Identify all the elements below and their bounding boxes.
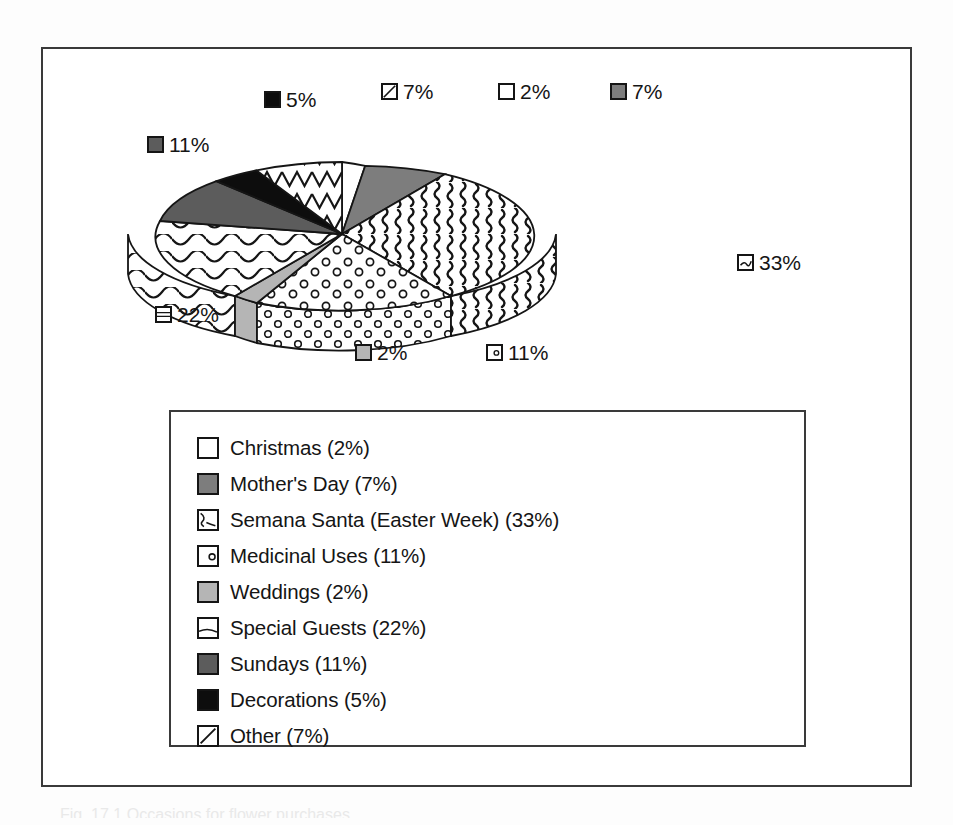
legend: Christmas (2%) Mother's Day (7%) Semana … <box>169 410 806 747</box>
swatch-dots-circles <box>486 344 503 361</box>
legend-item-semana-santa: Semana Santa (Easter Week) (33%) <box>197 502 804 538</box>
legend-swatch-black <box>197 689 219 711</box>
swatch-black <box>264 91 281 108</box>
callout-medicinal: 11% <box>486 342 548 363</box>
callout-christmas: 2% <box>498 81 550 102</box>
legend-swatch-dots-circles <box>197 545 219 567</box>
callout-sundays-text: 11% <box>169 134 209 155</box>
swatch-gray-light <box>355 344 372 361</box>
legend-label-sundays: Sundays (11%) <box>230 654 367 675</box>
callout-special-guests-text: 22% <box>177 304 219 325</box>
callout-decorations: 5% <box>264 89 316 110</box>
pie-wall-weddings <box>235 296 257 343</box>
pie-top-face <box>155 162 534 311</box>
legend-label-decorations: Decorations (5%) <box>230 690 387 711</box>
callout-decorations-text: 5% <box>286 89 316 110</box>
pie-chart: 5% 7% 2% 7% 11% <box>43 49 910 394</box>
figure-caption-remnant: Fig. 17.1 Occasions for flower purchases <box>60 806 860 818</box>
swatch-gray-dark <box>147 136 164 153</box>
callout-special-guests: 22% <box>155 304 219 325</box>
callout-semana-santa-text: 33% <box>759 252 801 273</box>
callout-semana-santa: 33% <box>737 252 801 273</box>
callout-other: 7% <box>381 81 433 102</box>
legend-item-mothers-day: Mother's Day (7%) <box>197 466 804 502</box>
swatch-squiggle <box>737 254 754 271</box>
legend-swatch-gray-medium <box>197 473 219 495</box>
legend-item-christmas: Christmas (2%) <box>197 430 804 466</box>
swatch-waves <box>155 306 172 323</box>
figure-frame: 5% 7% 2% 7% 11% <box>41 47 912 787</box>
legend-item-medicinal: Medicinal Uses (11%) <box>197 538 804 574</box>
legend-swatch-gray-dark <box>197 653 219 675</box>
legend-label-other: Other (7%) <box>230 726 329 747</box>
legend-item-sundays: Sundays (11%) <box>197 646 804 682</box>
callout-weddings-text: 2% <box>377 342 407 363</box>
legend-swatch-waves <box>197 617 219 639</box>
swatch-white <box>498 83 515 100</box>
legend-swatch-diagonal <box>197 725 219 747</box>
legend-item-special-guests: Special Guests (22%) <box>197 610 804 646</box>
legend-item-other: Other (7%) <box>197 718 804 754</box>
callout-mothers-day: 7% <box>610 81 662 102</box>
swatch-diagonal <box>381 83 398 100</box>
callout-christmas-text: 2% <box>520 81 550 102</box>
legend-label-semana-santa: Semana Santa (Easter Week) (33%) <box>230 510 559 531</box>
legend-item-decorations: Decorations (5%) <box>197 682 804 718</box>
legend-item-weddings: Weddings (2%) <box>197 574 804 610</box>
callout-other-text: 7% <box>403 81 433 102</box>
callout-sundays: 11% <box>147 134 209 155</box>
legend-label-mothers-day: Mother's Day (7%) <box>230 474 397 495</box>
callout-weddings: 2% <box>355 342 407 363</box>
legend-swatch-white <box>197 437 219 459</box>
legend-label-medicinal: Medicinal Uses (11%) <box>230 546 426 567</box>
callout-medicinal-text: 11% <box>508 342 548 363</box>
swatch-gray-medium <box>610 83 627 100</box>
legend-swatch-squiggle <box>197 509 219 531</box>
legend-label-weddings: Weddings (2%) <box>230 582 368 603</box>
figure-page: 5% 7% 2% 7% 11% <box>0 0 953 825</box>
legend-label-special-guests: Special Guests (22%) <box>230 618 426 639</box>
callout-mothers-day-text: 7% <box>632 81 662 102</box>
pie-chart-svg <box>43 49 910 394</box>
legend-swatch-gray-light <box>197 581 219 603</box>
legend-label-christmas: Christmas (2%) <box>230 438 370 459</box>
